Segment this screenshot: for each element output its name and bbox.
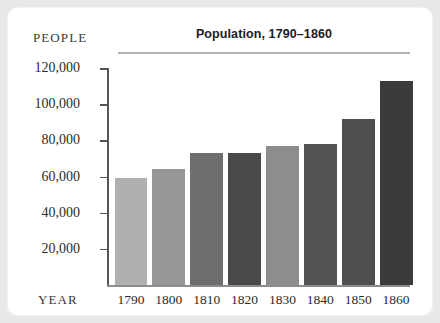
bar-1820 [228, 153, 261, 285]
x-axis-tick-label-1830: 1830 [265, 292, 301, 308]
y-axis-tick-label: 20,000 [0, 241, 80, 257]
x-axis-tick-label-1820: 1820 [227, 292, 263, 308]
x-axis-tick-label-1850: 1850 [340, 292, 376, 308]
bar-1860 [380, 81, 413, 285]
bar-1790 [115, 178, 148, 285]
y-axis-tick-label: 120,000 [0, 60, 80, 76]
bar-1830 [266, 146, 299, 285]
y-axis-tick-label: 60,000 [0, 169, 80, 185]
y-axis-tick-label: 100,000 [0, 96, 80, 112]
bar-1850 [342, 119, 375, 285]
x-axis-caption: YEAR [38, 292, 78, 308]
x-axis-tick-label-1840: 1840 [302, 292, 338, 308]
x-axis-line [107, 285, 410, 287]
figure-card: PEOPLE Population, 1790–1860 20,00040,00… [8, 8, 432, 315]
x-axis-tick-label-1790: 1790 [113, 292, 149, 308]
bar-1800 [152, 169, 185, 285]
bar-1840 [304, 144, 337, 285]
y-axis-caption: PEOPLE [33, 30, 87, 46]
chart-title: Population, 1790–1860 [118, 27, 410, 41]
y-axis-tick-label: 80,000 [0, 132, 80, 148]
y-axis-tick-label: 40,000 [0, 205, 80, 221]
title-divider [118, 52, 410, 54]
bar-1810 [190, 153, 223, 285]
x-axis-tick-label-1800: 1800 [151, 292, 187, 308]
x-axis-tick-label-1860: 1860 [378, 292, 414, 308]
x-axis-tick-label-1810: 1810 [189, 292, 225, 308]
bar-series [107, 68, 410, 285]
